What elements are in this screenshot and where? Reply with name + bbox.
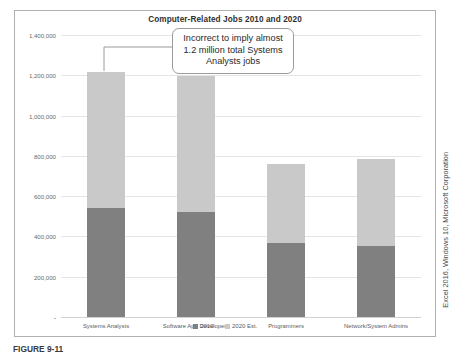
bar-group-3[interactable]: Programmers [267, 164, 305, 317]
chart-title: Computer-Related Jobs 2010 and 2020 [15, 15, 435, 24]
source-attribution: Excel 2016, Windows 10, Microsoft Corpor… [441, 152, 450, 308]
y-axis-tick-0: - [54, 314, 56, 321]
systems-analysts-callout[interactable]: Incorrect to imply almost 1.2 million to… [172, 28, 294, 74]
y-axis-tick-800000: 800,000 [34, 152, 56, 159]
figure-caption: FIGURE 9-11 [13, 344, 63, 354]
y-axis-tick-400000: 400,000 [34, 233, 56, 240]
chart-legend: 2010 2020 Est. [15, 323, 435, 329]
bar-segment-2010-2[interactable] [177, 212, 215, 317]
bar-segment-2020-est-1[interactable] [87, 72, 125, 208]
y-axis-tick-200000: 200,000 [34, 273, 56, 280]
y-axis-tick-1000000: 1,000,000 [29, 112, 56, 119]
gridline-0 [61, 317, 421, 318]
bar-segment-2010-3[interactable] [267, 243, 305, 317]
legend-label-2010: 2010 [200, 323, 213, 329]
y-axis-tick-600000: 600,000 [34, 193, 56, 200]
legend-swatch-2020-est [225, 324, 230, 329]
callout-line-2: 1.2 million total Systems [179, 45, 287, 57]
bar-segment-2010-1[interactable] [87, 208, 125, 317]
bar-segment-2010-4[interactable] [357, 246, 395, 318]
bar-segment-2020-est-2[interactable] [177, 76, 215, 212]
y-axis-tick-1400000: 1,400,000 [29, 32, 56, 39]
bar-group-2[interactable]: Software App Developers [177, 76, 215, 317]
legend-swatch-2010 [193, 324, 198, 329]
y-axis-tick-1200000: 1,200,000 [29, 72, 56, 79]
plot-area: 1,400,0001,200,0001,000,000800,000600,00… [61, 35, 421, 317]
legend-label-2020-est: 2020 Est. [232, 323, 257, 329]
bar-group-4[interactable]: Network/System Admins [357, 159, 395, 317]
bar-group-1[interactable]: Systems Analysts [87, 72, 125, 317]
bar-segment-2020-est-4[interactable] [357, 159, 395, 246]
callout-line-1: Incorrect to imply almost [179, 33, 287, 45]
legend-item-2010[interactable]: 2010 [193, 323, 214, 329]
bar-segment-2020-est-3[interactable] [267, 164, 305, 244]
legend-item-2020-est[interactable]: 2020 Est. [225, 323, 258, 329]
callout-line-3: Analysts jobs [179, 56, 287, 68]
